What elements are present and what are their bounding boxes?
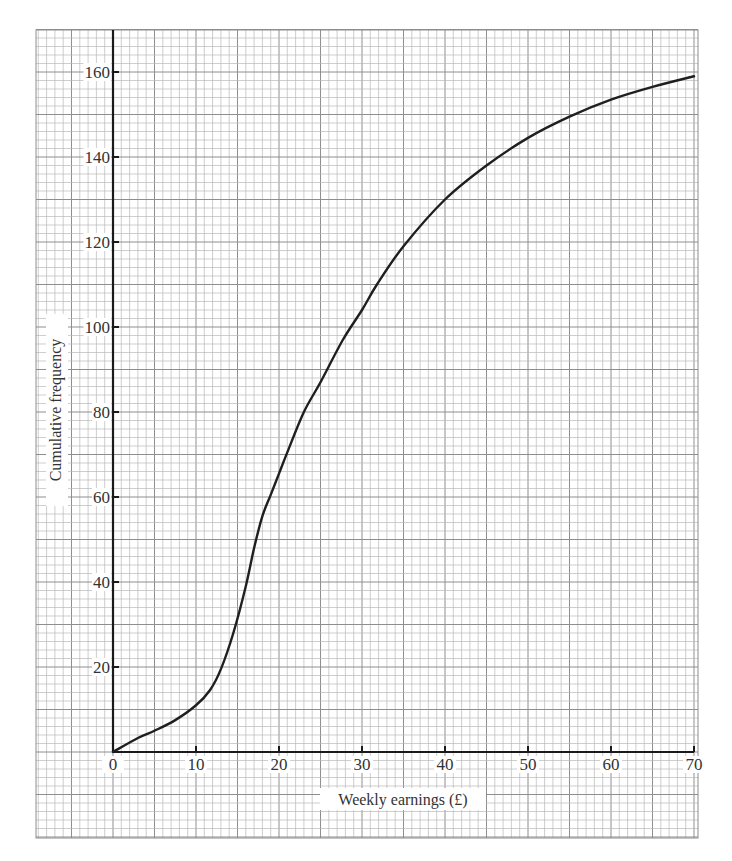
graph-paper-grid	[36, 30, 698, 839]
x-tick-label: 60	[603, 755, 620, 774]
y-tick-label: 20	[93, 658, 110, 677]
y-axis-label: Cumulative frequency	[47, 339, 65, 482]
x-tick-label: 50	[520, 755, 537, 774]
y-tick-label: 140	[85, 148, 111, 167]
grid-border	[36, 30, 698, 838]
x-tick-label: 0	[109, 755, 118, 774]
y-tick-label: 100	[85, 318, 111, 337]
x-tick-label: 70	[686, 755, 703, 774]
x-axis-label: Weekly earnings (£)	[338, 791, 467, 809]
x-tick-label: 40	[437, 755, 454, 774]
y-tick-label: 120	[85, 233, 111, 252]
y-tick-label: 80	[93, 403, 110, 422]
y-tick-label: 160	[85, 63, 111, 82]
cumulative-frequency-chart: 01020304050607020406080100120140160 Week…	[0, 0, 732, 861]
y-tick-label: 40	[93, 573, 110, 592]
y-tick-label: 60	[93, 488, 110, 507]
label-backgrounds	[46, 63, 705, 810]
x-tick-label: 10	[188, 755, 205, 774]
x-tick-label: 30	[354, 755, 371, 774]
x-tick-label: 20	[271, 755, 288, 774]
